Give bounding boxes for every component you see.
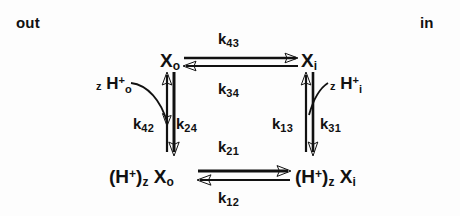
node-xo-sub: o [173, 59, 180, 73]
rate-label-k43: k43 [218, 31, 239, 49]
node-hxi-carrier: X [340, 166, 353, 187]
node-hxo-stoich: z [142, 175, 148, 189]
node-xo-main: X [160, 50, 173, 71]
rate-k31-sub: 31 [328, 122, 341, 134]
node-label-xo: Xo [160, 51, 180, 72]
node-hxo-carrier-sub: o [166, 175, 173, 189]
rate-label-k12: k12 [218, 190, 239, 208]
proton-out-side: o [125, 83, 132, 95]
proton-in-main: H [340, 74, 352, 93]
node-xi-main: X [301, 50, 314, 71]
rate-k43-sub: 43 [226, 37, 239, 49]
rate-label-k21: k21 [218, 139, 239, 157]
rate-label-k24: k24 [176, 116, 197, 134]
proton-in-side: i [359, 83, 362, 95]
rate-label-k34: k34 [218, 81, 239, 99]
rate-label-k13: k13 [272, 116, 293, 134]
arrow-k21 [198, 166, 291, 177]
node-hxo-open: (H [109, 166, 129, 187]
node-hxi-open: (H [295, 166, 315, 187]
rate-k21-sub: 21 [226, 145, 239, 157]
node-label-hxo: (H+)z Xo [109, 167, 174, 188]
node-hxi-stoich: z [328, 175, 334, 189]
node-label-hxi: (H+)z Xi [295, 167, 356, 188]
proton-out-stoich: z [96, 80, 102, 92]
arrow-k34 [183, 61, 298, 71]
diagram-canvas: out in [0, 0, 460, 216]
proton-label-in: z H+i [330, 75, 362, 95]
rate-k24-sub: 24 [184, 122, 197, 134]
node-xi-sub: i [314, 59, 317, 73]
rate-k34-sub: 34 [226, 87, 239, 99]
proton-in-stoich: z [330, 80, 336, 92]
rate-k13-sub: 13 [280, 122, 293, 134]
node-label-xi: Xi [301, 51, 317, 72]
rate-label-k42: k42 [133, 116, 154, 134]
rate-k12-sub: 12 [226, 196, 239, 208]
proton-label-out: z H+o [96, 75, 132, 95]
rate-label-k31: k31 [320, 116, 341, 134]
arrow-k12 [197, 175, 290, 185]
rate-k42-sub: 42 [141, 122, 154, 134]
node-hxo-carrier: X [154, 166, 167, 187]
arrow-k43 [184, 53, 298, 63]
node-hxi-carrier-sub: i [352, 175, 355, 189]
proton-out-main: H [106, 74, 118, 93]
